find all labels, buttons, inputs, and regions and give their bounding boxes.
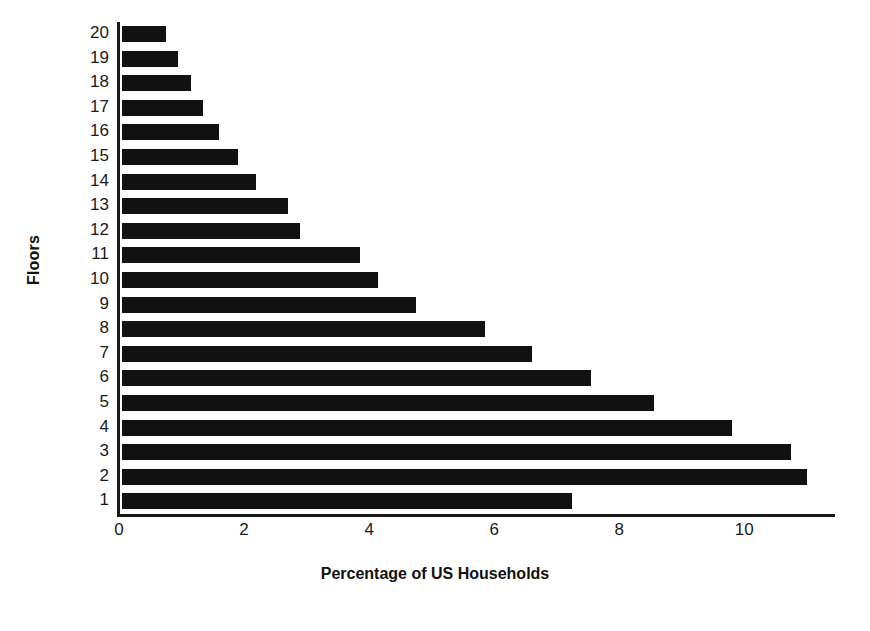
y-tick-label: 20 bbox=[67, 21, 109, 45]
bar bbox=[122, 75, 191, 91]
y-tick-label: 4 bbox=[67, 415, 109, 439]
bar bbox=[122, 370, 591, 386]
x-tick-label: 4 bbox=[364, 520, 373, 540]
y-tick-label: 18 bbox=[67, 70, 109, 94]
x-tick-label: 8 bbox=[615, 520, 624, 540]
y-tick-label: 13 bbox=[67, 193, 109, 217]
bar bbox=[122, 51, 178, 67]
y-tick-label: 16 bbox=[67, 119, 109, 143]
bar bbox=[122, 124, 219, 140]
y-tick-label: 8 bbox=[67, 316, 109, 340]
bar bbox=[122, 272, 378, 288]
bar bbox=[122, 420, 732, 436]
bar bbox=[122, 100, 203, 116]
y-tick-label: 9 bbox=[67, 292, 109, 316]
bar bbox=[122, 26, 166, 42]
bar bbox=[122, 493, 572, 509]
y-tick-label: 1 bbox=[67, 488, 109, 512]
y-tick-label: 2 bbox=[67, 464, 109, 488]
bar-row: 13 bbox=[119, 194, 835, 219]
y-axis-title-label: Floors bbox=[25, 235, 43, 285]
y-tick-label: 6 bbox=[67, 365, 109, 389]
x-axis-ticks: 0246810 bbox=[119, 520, 859, 550]
bar-row: 3 bbox=[119, 440, 835, 465]
y-tick-label: 10 bbox=[67, 267, 109, 291]
y-tick-label: 14 bbox=[67, 169, 109, 193]
bar bbox=[122, 444, 791, 460]
bar bbox=[122, 149, 238, 165]
bar bbox=[122, 223, 300, 239]
bar bbox=[122, 297, 416, 313]
bar-row: 12 bbox=[119, 219, 835, 244]
bar bbox=[122, 469, 807, 485]
bar-row: 15 bbox=[119, 145, 835, 170]
bar-row: 14 bbox=[119, 170, 835, 195]
y-tick-label: 3 bbox=[67, 439, 109, 463]
y-tick-label: 11 bbox=[67, 242, 109, 266]
bar-row: 11 bbox=[119, 243, 835, 268]
bar-row: 8 bbox=[119, 317, 835, 342]
y-axis-title: Floors bbox=[14, 0, 54, 520]
bar-row: 10 bbox=[119, 268, 835, 293]
bar-row: 4 bbox=[119, 416, 835, 441]
bar bbox=[122, 395, 654, 411]
x-axis-title: Percentage of US Households bbox=[0, 565, 870, 583]
x-tick-label: 0 bbox=[114, 520, 123, 540]
x-axis-line bbox=[117, 514, 835, 517]
y-tick-label: 15 bbox=[67, 144, 109, 168]
bar bbox=[122, 321, 485, 337]
bar-row: 18 bbox=[119, 71, 835, 96]
bar-row: 17 bbox=[119, 96, 835, 121]
bar-row: 2 bbox=[119, 465, 835, 490]
y-tick-label: 19 bbox=[67, 46, 109, 70]
bar bbox=[122, 198, 288, 214]
y-tick-label: 12 bbox=[67, 218, 109, 242]
plot-area: 2019181716151413121110987654321 bbox=[119, 22, 835, 514]
x-tick-label: 10 bbox=[735, 520, 754, 540]
bar-rows: 2019181716151413121110987654321 bbox=[119, 22, 835, 514]
bar-row: 5 bbox=[119, 391, 835, 416]
bar-row: 7 bbox=[119, 342, 835, 367]
y-tick-label: 17 bbox=[67, 95, 109, 119]
x-tick-label: 2 bbox=[239, 520, 248, 540]
bar bbox=[122, 174, 256, 190]
x-tick-label: 6 bbox=[489, 520, 498, 540]
bar-row: 19 bbox=[119, 47, 835, 72]
bar-row: 6 bbox=[119, 366, 835, 391]
y-tick-label: 5 bbox=[67, 390, 109, 414]
y-tick-label: 7 bbox=[67, 341, 109, 365]
bar bbox=[122, 247, 360, 263]
bar-row: 20 bbox=[119, 22, 835, 47]
bar-row: 16 bbox=[119, 120, 835, 145]
bar bbox=[122, 346, 532, 362]
bar-row: 9 bbox=[119, 293, 835, 318]
bar-row: 1 bbox=[119, 489, 835, 514]
bar-chart: Floors 2019181716151413121110987654321 0… bbox=[0, 0, 870, 631]
